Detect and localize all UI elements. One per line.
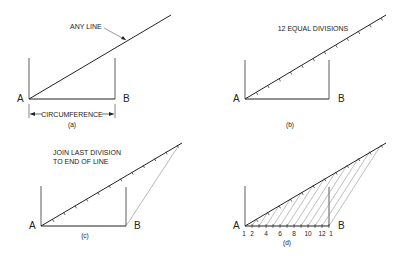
arrow-right-icon [109,112,114,116]
division-tick [347,38,349,41]
scale-label-0: 1 [242,230,246,237]
caption-d: (d) [283,239,291,247]
point-b-label: B [338,220,345,231]
division-tick [268,86,270,89]
parallel-line [287,186,313,227]
parallel-line [329,145,381,226]
division-tick [381,18,383,21]
division-tick [64,213,66,216]
point-a-label: A [29,220,36,231]
join-label-line1: JOIN LAST DIVISION [53,149,121,156]
division-tick [324,52,326,55]
point-a-label: A [233,93,240,104]
caption-b: (b) [286,121,294,129]
caption-c: (c) [81,232,89,240]
parallel-line [273,199,290,226]
division-tick [302,65,304,68]
division-tick [370,25,372,28]
scale-label-7: 1 [329,230,333,237]
division-tick [279,79,281,82]
point-b-label: B [134,220,141,231]
circumference-development-diagram: ANY LINE A B CIRCUMFERENCE (a) 12 EQUAL … [0,0,399,256]
division-tick [290,72,292,75]
division-tick [358,32,360,35]
circumference-label: CIRCUMFERENCE [41,111,103,118]
point-b-label: B [338,93,345,104]
division-tick [52,219,54,222]
parallel-line [308,165,347,226]
division-tick [75,206,77,209]
scale-label-3: 6 [278,230,282,237]
panel-d: A B 1 2 4 6 8 10 12 1 (d) [233,143,386,247]
parallel-line [266,206,279,226]
caption-a: (a) [68,121,76,129]
any-line-label: ANY LINE [70,23,102,30]
parallel-line [315,159,358,227]
divisions-label: 12 EQUAL DIVISIONS [278,25,349,33]
scale-label-4: 8 [292,230,296,237]
divided-line [245,143,386,226]
point-a-label: A [17,93,24,104]
scale-label-5: 10 [304,230,312,237]
arrow-left-icon [30,112,35,116]
point-a-label: A [233,220,240,231]
division-tick [279,206,281,209]
parallel-line [301,172,336,226]
scale-label-1: 2 [250,230,254,237]
scale-label-2: 4 [264,230,268,237]
panel-b: 12 EQUAL DIVISIONS A B (b) [233,15,386,129]
leader-arrowhead-icon [121,36,126,40]
join-label-line2: TO END OF LINE [53,158,109,165]
division-tick [268,213,270,216]
point-b-label: B [123,93,130,104]
division-tick [336,45,338,48]
panel-c: JOIN LAST DIVISION TO END OF LINE A B (c… [29,143,182,240]
division-tick [313,59,315,62]
division-tick [256,219,258,222]
scale-label-6: 12 [318,230,326,237]
join-line [126,145,179,226]
parallel-line [259,213,268,227]
division-tick [256,92,258,95]
panel-a: ANY LINE A B CIRCUMFERENCE (a) [17,15,171,129]
parallel-line [280,192,302,226]
